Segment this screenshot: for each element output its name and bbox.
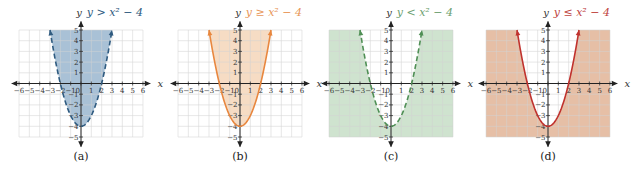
x-tick-label: 6	[608, 87, 613, 95]
axis-arrow-icon	[388, 141, 394, 147]
y-tick-label: 4	[384, 37, 389, 45]
y-tick-label: −2	[378, 101, 388, 109]
panel-caption: (c)	[384, 150, 399, 163]
y-tick-label: 4	[541, 37, 546, 45]
x-tick-label: −2	[522, 87, 532, 95]
y-tick-label: 4	[233, 37, 238, 45]
y-axis-label: y	[234, 7, 241, 18]
x-tick-label: −4	[345, 87, 356, 95]
x-tick-label: 6	[300, 87, 305, 95]
x-tick-label: −6	[324, 87, 335, 95]
y-tick-label: 2	[233, 59, 237, 67]
y-tick-label: −5	[227, 134, 237, 142]
axis-arrow-icon	[478, 81, 484, 87]
x-tick-label: −3	[204, 87, 214, 95]
x-tick-label: −5	[24, 87, 34, 95]
y-tick-label: 1	[233, 69, 237, 77]
y-tick-label: 2	[74, 59, 78, 67]
axis-arrow-icon	[170, 81, 176, 87]
panel-caption: (d)	[540, 150, 556, 163]
y-tick-label: −5	[68, 134, 78, 142]
axis-arrow-icon	[388, 21, 394, 27]
axis-arrow-icon	[78, 21, 84, 27]
x-tick-label: 1	[248, 87, 252, 95]
y-tick-label: 3	[541, 48, 545, 56]
y-tick-label: 4	[74, 37, 79, 45]
x-tick-label: 6	[451, 87, 456, 95]
axis-arrow-icon	[321, 81, 327, 87]
x-tick-label: −5	[334, 87, 344, 95]
y-tick-label: 5	[541, 27, 545, 35]
x-tick-label: 5	[289, 87, 293, 95]
x-tick-label: −4	[502, 87, 513, 95]
x-tick-label: 5	[440, 87, 444, 95]
axis-arrow-icon	[237, 141, 243, 147]
inequality-figure: −6−5−4−3−2−1123456−5−4−3−2−1123450xyy > …	[0, 0, 641, 172]
x-tick-label: −2	[55, 87, 65, 95]
x-tick-label: 3	[420, 87, 424, 95]
y-tick-label: 3	[384, 48, 388, 56]
x-tick-label: −5	[491, 87, 501, 95]
y-tick-label: 5	[74, 27, 78, 35]
x-axis-label: x	[157, 78, 163, 89]
axis-arrow-icon	[545, 21, 551, 27]
x-tick-label: −5	[183, 87, 193, 95]
x-tick-label: −3	[355, 87, 365, 95]
y-tick-label: 2	[384, 59, 388, 67]
x-tick-label: −2	[365, 87, 375, 95]
x-tick-label: 4	[279, 87, 284, 95]
axis-arrow-icon	[612, 81, 618, 87]
x-tick-label: −3	[512, 87, 522, 95]
y-tick-label: 1	[384, 69, 388, 77]
axis-arrow-icon	[455, 81, 461, 87]
inequality-label: y < x² − 4	[396, 6, 453, 19]
y-tick-label: 2	[541, 59, 545, 67]
y-tick-label: −2	[227, 101, 237, 109]
axis-arrow-icon	[145, 81, 151, 87]
inequality-label: y ≥ x² − 4	[245, 6, 302, 19]
x-tick-label: −6	[481, 87, 492, 95]
origin-label: 0	[543, 87, 547, 95]
inequality-label: y > x² − 4	[86, 6, 143, 19]
x-tick-label: 4	[430, 87, 435, 95]
x-tick-label: −3	[45, 87, 55, 95]
x-tick-label: 5	[130, 87, 134, 95]
y-tick-label: 3	[233, 48, 237, 56]
x-axis-label: x	[467, 78, 473, 89]
axis-arrow-icon	[545, 141, 551, 147]
x-axis-label: x	[624, 78, 630, 89]
y-tick-label: −5	[535, 134, 545, 142]
x-axis-label: x	[316, 78, 322, 89]
y-axis-label: y	[385, 7, 392, 18]
x-tick-label: −6	[14, 87, 25, 95]
y-tick-label: 5	[384, 27, 388, 35]
graph-panel-d: −6−5−4−3−2−1123456−5−4−3−2−1123450xyy ≤ …	[478, 6, 630, 163]
x-tick-label: −6	[173, 87, 184, 95]
x-tick-label: 4	[587, 87, 592, 95]
y-tick-label: −2	[68, 101, 78, 109]
inequality-label: y ≤ x² − 4	[553, 6, 610, 19]
y-tick-label: 5	[233, 27, 237, 35]
axis-arrow-icon	[237, 21, 243, 27]
axis-arrow-icon	[304, 81, 310, 87]
x-tick-label: 3	[110, 87, 114, 95]
x-tick-label: 1	[89, 87, 93, 95]
y-tick-label: 1	[541, 69, 545, 77]
y-tick-label: −2	[535, 101, 545, 109]
y-axis-label: y	[75, 7, 82, 18]
graph-panel-c: −6−5−4−3−2−1123456−5−4−3−2−1123450xyy < …	[321, 6, 473, 163]
axis-arrow-icon	[78, 141, 84, 147]
origin-label: 0	[235, 87, 239, 95]
axis-arrow-icon	[11, 81, 17, 87]
figure-canvas: −6−5−4−3−2−1123456−5−4−3−2−1123450xyy > …	[0, 0, 641, 172]
panel-caption: (b)	[232, 150, 248, 163]
y-tick-label: −5	[378, 134, 388, 142]
x-tick-label: 3	[577, 87, 581, 95]
origin-label: 0	[386, 87, 390, 95]
x-tick-label: 5	[597, 87, 601, 95]
x-tick-label: −2	[214, 87, 224, 95]
x-tick-label: 1	[556, 87, 560, 95]
x-tick-label: 3	[269, 87, 273, 95]
origin-label: 0	[76, 87, 80, 95]
graph-panel-a: −6−5−4−3−2−1123456−5−4−3−2−1123450xyy > …	[11, 6, 163, 163]
